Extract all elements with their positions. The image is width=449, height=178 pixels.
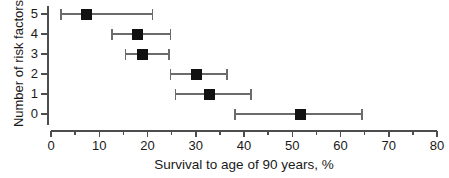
x-tick-label-10: 10 xyxy=(86,139,112,153)
x-axis-title: Survival to age of 90 years, % xyxy=(51,157,437,172)
y-tick-label-3: 3 xyxy=(25,47,38,60)
x-tick-20 xyxy=(147,131,149,137)
data-point-marker xyxy=(191,69,202,80)
error-cap-low xyxy=(111,29,113,40)
y-tick-1 xyxy=(41,93,47,95)
y-tick-label-1: 1 xyxy=(25,87,38,100)
error-bar-line xyxy=(61,13,152,15)
error-cap-low xyxy=(234,109,236,120)
error-cap-low xyxy=(125,49,127,60)
x-tick-60 xyxy=(340,131,342,137)
x-tick-70 xyxy=(388,131,390,137)
y-tick-5 xyxy=(41,13,47,15)
x-minor-tick-75 xyxy=(412,131,414,135)
error-cap-low xyxy=(60,9,62,20)
x-minor-tick-25 xyxy=(171,131,173,135)
data-point-marker xyxy=(295,109,306,120)
error-cap-high xyxy=(170,29,172,40)
x-tick-0 xyxy=(50,131,52,137)
x-tick-label-80: 80 xyxy=(424,139,449,153)
data-point-marker xyxy=(137,49,148,60)
x-tick-30 xyxy=(195,131,197,137)
x-minor-tick-55 xyxy=(316,131,318,135)
x-tick-label-30: 30 xyxy=(183,139,209,153)
x-tick-50 xyxy=(292,131,294,137)
chart-container: 543210 01020304050607080 Number of risk … xyxy=(0,0,449,178)
y-tick-label-4: 4 xyxy=(25,27,38,40)
x-tick-40 xyxy=(243,131,245,137)
plot-area: 543210 01020304050607080 xyxy=(0,0,449,178)
x-tick-80 xyxy=(436,131,438,137)
y-tick-3 xyxy=(41,53,47,55)
error-cap-low xyxy=(175,89,177,100)
y-tick-4 xyxy=(41,33,47,35)
x-minor-tick-45 xyxy=(267,131,269,135)
y-axis-line xyxy=(47,6,49,125)
x-minor-tick-15 xyxy=(123,131,125,135)
x-tick-label-20: 20 xyxy=(135,139,161,153)
data-point-marker xyxy=(132,29,143,40)
x-tick-label-0: 0 xyxy=(38,139,64,153)
error-cap-high xyxy=(226,69,228,80)
y-tick-label-2: 2 xyxy=(25,67,38,80)
error-cap-high xyxy=(361,109,363,120)
error-cap-low xyxy=(170,69,172,80)
y-axis-title: Number of risk factors xyxy=(11,0,26,134)
error-cap-high xyxy=(168,49,170,60)
y-tick-label-5: 5 xyxy=(25,7,38,20)
x-minor-tick-65 xyxy=(364,131,366,135)
x-tick-label-40: 40 xyxy=(231,139,257,153)
y-tick-0 xyxy=(41,113,47,115)
x-minor-tick-35 xyxy=(219,131,221,135)
x-minor-tick-5 xyxy=(74,131,76,135)
data-point-marker xyxy=(81,9,92,20)
x-tick-label-70: 70 xyxy=(376,139,402,153)
x-tick-10 xyxy=(99,131,101,137)
y-tick-label-0: 0 xyxy=(25,107,38,120)
y-tick-2 xyxy=(41,73,47,75)
data-point-marker xyxy=(204,89,215,100)
error-cap-high xyxy=(152,9,154,20)
x-tick-label-50: 50 xyxy=(279,139,305,153)
error-cap-high xyxy=(250,89,252,100)
x-tick-label-60: 60 xyxy=(328,139,354,153)
